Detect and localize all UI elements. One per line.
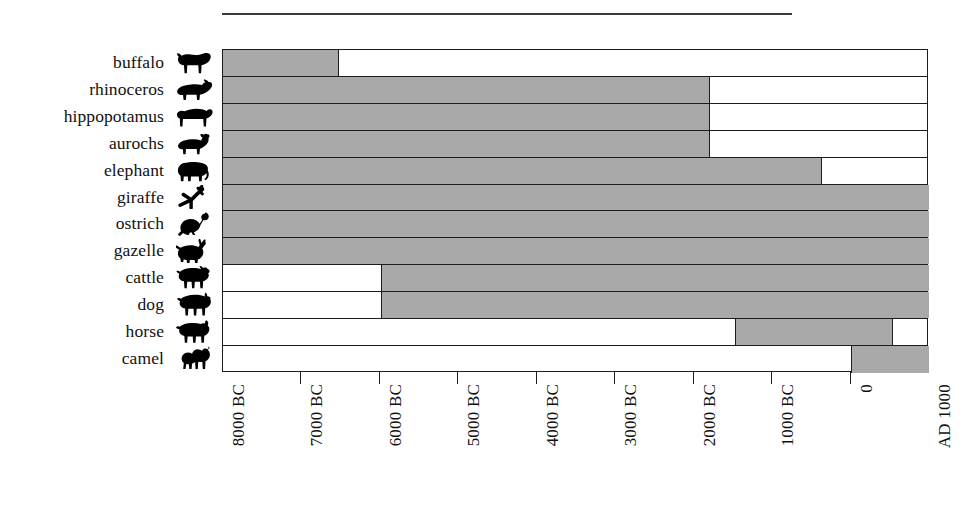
- x-tick-label-9: AD 1000: [935, 384, 955, 448]
- x-tick-label-1: 7000 BC: [307, 384, 327, 446]
- x-tick-label-text: 5000 BC: [464, 384, 484, 446]
- x-tick-label-5: 3000 BC: [621, 384, 641, 446]
- x-tick-label-7: 1000 BC: [778, 384, 798, 446]
- elephant-icon: [172, 157, 218, 184]
- x-axis-tick-labels: 8000 BC7000 BC6000 BC5000 BC4000 BC3000 …: [222, 384, 928, 504]
- x-tick-6: [693, 372, 694, 384]
- category-label-giraffe: giraffe: [0, 184, 170, 211]
- x-tick-label-8: 0: [857, 384, 877, 393]
- bar-cattle: [381, 265, 929, 291]
- ostrich-icon: [172, 210, 218, 237]
- x-tick-label-4: 4000 BC: [543, 384, 563, 446]
- top-rule-divider: [222, 13, 792, 15]
- gazelle-icon: [172, 237, 218, 264]
- bar-row: [223, 50, 927, 77]
- bar-horse: [735, 319, 893, 345]
- x-tick-label-text: 4000 BC: [543, 384, 563, 446]
- rhinoceros-icon: [172, 76, 218, 103]
- horse-icon: [172, 318, 218, 345]
- bar-buffalo: [223, 50, 339, 76]
- bar-rhinoceros: [223, 77, 710, 103]
- x-tick-label-3: 5000 BC: [464, 384, 484, 446]
- category-label-elephant: elephant: [0, 157, 170, 184]
- x-axis-ticks: [222, 372, 928, 384]
- category-label-aurochs: aurochs: [0, 130, 170, 157]
- x-tick-label-text: 1000 BC: [778, 384, 798, 446]
- giraffe-icon: [172, 184, 218, 211]
- category-label-buffalo: buffalo: [0, 49, 170, 76]
- bar-row: [223, 211, 927, 238]
- camel-icon: [172, 345, 218, 372]
- cattle-icon: [172, 264, 218, 291]
- bar-hippopotamus: [223, 104, 710, 130]
- bar-row: [223, 265, 927, 292]
- x-tick-5: [614, 372, 615, 384]
- aurochs-icon: [172, 130, 218, 157]
- x-tick-label-text: 8000 BC: [229, 384, 249, 446]
- bar-aurochs: [223, 131, 710, 157]
- category-label-camel: camel: [0, 345, 170, 372]
- bar-row: [223, 104, 927, 131]
- hippopotamus-icon: [172, 103, 218, 130]
- category-label-dog: dog: [0, 291, 170, 318]
- x-tick-2: [379, 372, 380, 384]
- bar-dog: [381, 292, 929, 318]
- bar-row: [223, 158, 927, 185]
- x-tick-label-text: 3000 BC: [621, 384, 641, 446]
- x-tick-label-2: 6000 BC: [386, 384, 406, 446]
- bar-camel: [851, 346, 929, 373]
- bar-giraffe: [223, 185, 929, 211]
- x-tick-label-text: 7000 BC: [307, 384, 327, 446]
- category-icon-column: [172, 49, 218, 372]
- plot-area: [222, 49, 928, 372]
- x-tick-7: [771, 372, 772, 384]
- x-tick-label-text: 2000 BC: [700, 384, 720, 446]
- dog-icon: [172, 291, 218, 318]
- x-tick-1: [300, 372, 301, 384]
- bar-row: [223, 292, 927, 319]
- x-tick-label-6: 2000 BC: [700, 384, 720, 446]
- bar-row: [223, 346, 927, 373]
- category-label-ostrich: ostrich: [0, 210, 170, 237]
- buffalo-icon: [172, 49, 218, 76]
- bar-ostrich: [223, 211, 929, 237]
- category-label-cattle: cattle: [0, 264, 170, 291]
- x-tick-label-0: 8000 BC: [229, 384, 249, 446]
- bar-elephant: [223, 158, 822, 184]
- category-label-horse: horse: [0, 318, 170, 345]
- bar-row: [223, 77, 927, 104]
- category-label-rhinoceros: rhinoceros: [0, 76, 170, 103]
- x-tick-8: [850, 372, 851, 384]
- category-label-hippopotamus: hippopotamus: [0, 103, 170, 130]
- x-tick-label-text: AD 1000: [935, 384, 955, 448]
- bar-gazelle: [223, 238, 929, 264]
- bar-row: [223, 238, 927, 265]
- x-tick-3: [457, 372, 458, 384]
- category-label-gazelle: gazelle: [0, 237, 170, 264]
- x-tick-label-text: 6000 BC: [386, 384, 406, 446]
- x-tick-4: [536, 372, 537, 384]
- chart-figure: buffalorhinoceroshippopotamusaurochselep…: [0, 0, 970, 512]
- bar-row: [223, 131, 927, 158]
- category-label-column: buffalorhinoceroshippopotamusaurochselep…: [0, 49, 170, 372]
- bar-row: [223, 319, 927, 346]
- x-tick-label-text: 0: [857, 384, 877, 393]
- bar-row: [223, 185, 927, 212]
